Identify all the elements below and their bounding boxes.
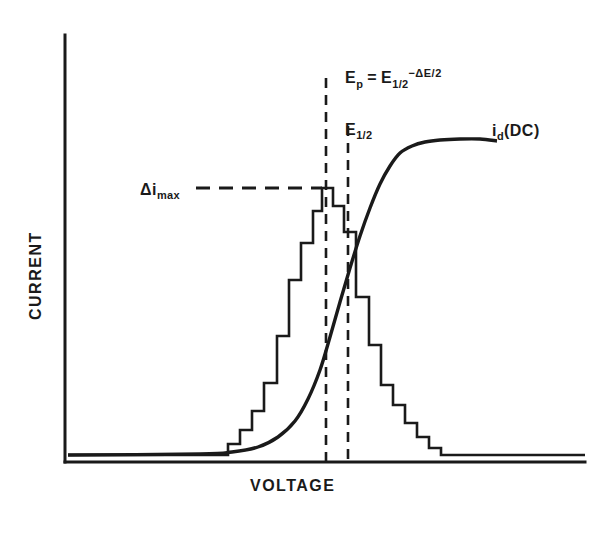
plot-canvas — [0, 0, 601, 542]
dc-parenthetical: (DC) — [504, 122, 540, 139]
polarography-figure: CURRENT VOLTAGE Δimax Ep=E1/2−ΔE/2 E1/2 … — [0, 0, 601, 542]
sigmoid-curve — [68, 139, 497, 455]
delta-e-term: −ΔE/2 — [408, 67, 441, 79]
y-axis-title: CURRENT — [28, 300, 44, 320]
half-wave-potential-label: E1/2 — [345, 122, 372, 141]
peak-current-subscript: max — [157, 189, 180, 201]
diffusion-current-subscript: d — [497, 130, 504, 142]
peak-potential-equation: Ep=E1/2−ΔE/2 — [345, 68, 442, 90]
diffusion-current-label: id(DC) — [492, 123, 540, 142]
equals-sign: = — [363, 69, 381, 86]
x-axis-title: VOLTAGE — [250, 478, 335, 494]
ehalf-subscript: 1/2 — [392, 78, 408, 90]
peak-current-symbol: Δi — [140, 181, 157, 198]
ep-symbol: E — [345, 69, 356, 86]
peak-current-label: Δimax — [140, 182, 180, 201]
half-wave-symbol: E — [345, 121, 356, 138]
ehalf-symbol: E — [381, 69, 392, 86]
half-wave-subscript: 1/2 — [356, 129, 372, 141]
